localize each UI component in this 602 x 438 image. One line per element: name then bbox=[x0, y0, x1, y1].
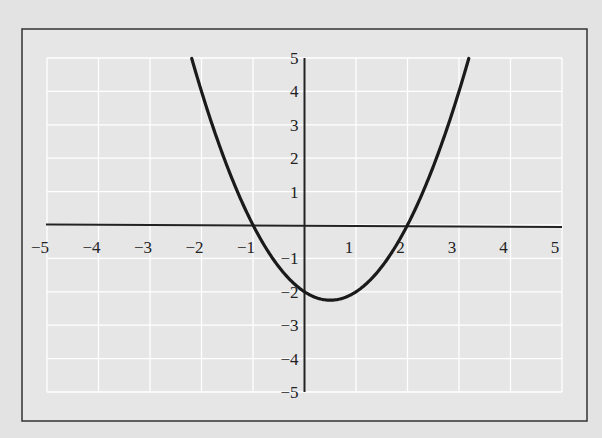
y-tick-label: −1 bbox=[280, 249, 298, 268]
y-tick-label: −4 bbox=[280, 350, 299, 369]
y-tick-label: −3 bbox=[280, 316, 298, 335]
y-tick-label: 2 bbox=[290, 149, 299, 168]
x-tick-label: 4 bbox=[499, 238, 508, 257]
y-tick-label: 5 bbox=[290, 49, 299, 68]
y-tick-label: 1 bbox=[290, 183, 299, 202]
x-tick-label: 5 bbox=[551, 238, 560, 257]
x-tick-label: −1 bbox=[237, 238, 255, 257]
x-tick-label: 3 bbox=[448, 238, 457, 257]
x-tick-label: −3 bbox=[134, 238, 152, 257]
x-tick-label: −5 bbox=[31, 238, 49, 257]
x-tick-label: −2 bbox=[185, 238, 203, 257]
y-tick-label: 3 bbox=[290, 116, 299, 135]
parabola-chart: −5−4−3−2−112345 54321−1−2−3−4−5 bbox=[0, 0, 602, 438]
y-tick-label: 4 bbox=[290, 82, 299, 101]
x-tick-label: 1 bbox=[345, 238, 354, 257]
y-tick-label: −5 bbox=[280, 383, 298, 402]
x-tick-label: −4 bbox=[82, 238, 101, 257]
